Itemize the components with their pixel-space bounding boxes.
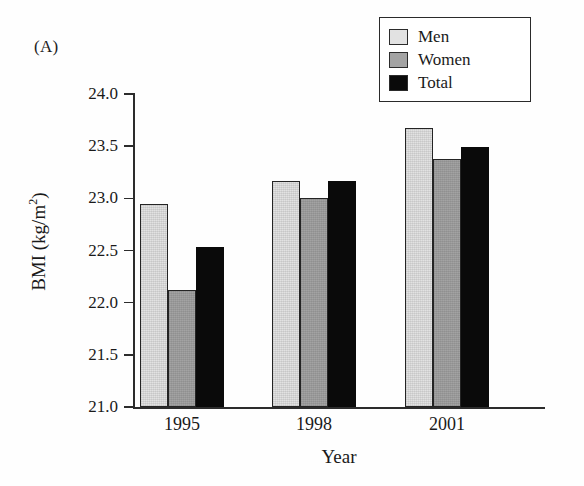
y-tick-label: 22.5 <box>62 242 118 259</box>
y-tick-label-wrap: 21.5 <box>56 346 118 363</box>
y-tick-label: 24.0 <box>62 85 118 102</box>
y-axis-title-close: ) <box>28 192 49 198</box>
x-category-label-2001: 2001 <box>392 414 502 435</box>
y-tick-mark <box>124 406 134 408</box>
y-tick-label: 23.0 <box>62 189 118 206</box>
bar-total-1995 <box>196 247 224 407</box>
y-tick-label-wrap: 22.0 <box>56 294 118 311</box>
x-category-label-1998: 1998 <box>259 414 369 435</box>
y-tick-label-wrap: 22.5 <box>56 242 118 259</box>
bar-total-2001 <box>461 147 489 407</box>
bar-total-1998 <box>328 181 356 407</box>
bar-men-2001 <box>405 128 433 407</box>
y-tick-label-wrap: 23.0 <box>56 189 118 206</box>
y-tick-label: 22.0 <box>62 294 118 311</box>
bar-women-1998 <box>300 198 328 407</box>
bar-women-2001 <box>433 159 461 407</box>
y-tick-mark <box>124 198 134 200</box>
bar-women-1995 <box>168 290 196 407</box>
y-tick-mark <box>124 250 134 252</box>
x-axis-title: Year <box>133 446 545 468</box>
y-tick-label: 21.0 <box>62 398 118 415</box>
y-tick-label-wrap: 21.0 <box>56 398 118 415</box>
x-category-label-1995: 1995 <box>127 414 237 435</box>
y-axis-title-main: BMI (kg/m <box>28 205 49 291</box>
y-tick-label: 23.5 <box>62 137 118 154</box>
plot-area: BMI (kg/m2) 24.023.523.022.522.021.521.0… <box>0 0 584 486</box>
bar-men-1998 <box>272 181 300 407</box>
y-tick-label-wrap: 24.0 <box>56 85 118 102</box>
y-tick-label-wrap: 23.5 <box>56 137 118 154</box>
y-tick-mark <box>124 145 134 147</box>
x-axis-line <box>133 407 545 409</box>
y-tick-mark <box>124 302 134 304</box>
y-tick-label: 21.5 <box>62 346 118 363</box>
y-axis-title-exponent: 2 <box>26 199 40 205</box>
y-tick-mark <box>124 93 134 95</box>
bmi-bar-chart-figure: (A) Men Women Total BMI (kg/m2) 24.023.5… <box>0 0 584 486</box>
y-tick-mark <box>124 354 134 356</box>
bar-men-1995 <box>140 204 168 407</box>
y-axis-title: BMI (kg/m2) <box>26 122 49 362</box>
